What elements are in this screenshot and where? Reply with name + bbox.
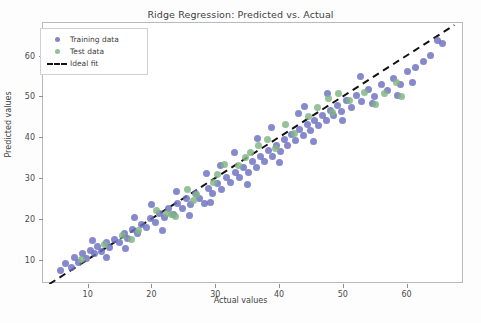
data-point xyxy=(269,153,276,160)
data-point xyxy=(253,164,260,171)
data-point xyxy=(214,171,221,178)
y-axis-label: Predicted values xyxy=(4,65,13,185)
data-point xyxy=(282,121,289,128)
data-point xyxy=(439,40,446,47)
legend-item-training: Training data xyxy=(46,34,141,45)
data-point xyxy=(371,93,378,100)
data-point xyxy=(152,219,159,226)
data-point xyxy=(412,64,419,71)
data-point xyxy=(268,124,275,131)
data-point xyxy=(210,179,217,186)
data-point xyxy=(221,161,228,168)
data-point xyxy=(335,90,342,97)
data-point xyxy=(346,97,353,104)
y-tick-label: 40 xyxy=(13,133,35,142)
data-point xyxy=(409,79,416,86)
data-point xyxy=(378,81,385,88)
x-axis-label: Actual values xyxy=(0,296,481,305)
data-point xyxy=(284,142,291,149)
chart-figure: Ridge Regression: Predicted vs. Actual 1… xyxy=(0,0,481,323)
data-point xyxy=(203,170,210,177)
data-point xyxy=(159,227,166,234)
data-point xyxy=(119,232,126,239)
x-tick xyxy=(215,284,216,288)
data-point xyxy=(190,197,197,204)
data-point xyxy=(261,158,268,165)
data-point xyxy=(357,73,364,80)
legend-item-ideal-fit: Ideal fit xyxy=(46,58,141,69)
data-point xyxy=(135,227,142,234)
data-point xyxy=(339,117,346,124)
y-tick xyxy=(39,219,43,220)
data-point xyxy=(218,186,225,193)
dashed-line-icon xyxy=(46,63,68,65)
y-tick xyxy=(39,260,43,261)
training-dot-icon xyxy=(46,37,68,42)
data-point xyxy=(227,179,234,186)
data-point xyxy=(325,95,332,102)
chart-legend: Training data Test data Ideal fit xyxy=(40,28,148,75)
y-tick xyxy=(39,137,43,138)
data-point xyxy=(231,149,238,156)
data-point xyxy=(300,132,307,139)
y-tick-label: 10 xyxy=(13,255,35,264)
x-tick xyxy=(88,284,89,288)
data-point xyxy=(393,79,400,86)
data-point xyxy=(358,98,365,105)
data-point xyxy=(381,90,388,97)
data-point xyxy=(348,104,355,111)
data-point xyxy=(57,267,64,274)
test-dot-icon xyxy=(46,49,68,54)
data-point xyxy=(314,104,321,111)
legend-label: Training data xyxy=(68,35,119,44)
data-point xyxy=(236,174,243,181)
legend-label: Test data xyxy=(68,47,104,56)
data-point xyxy=(78,256,85,263)
data-point xyxy=(427,52,434,59)
data-point xyxy=(103,254,110,261)
data-point xyxy=(420,58,427,65)
x-tick xyxy=(279,284,280,288)
data-point xyxy=(295,110,302,117)
data-point xyxy=(173,188,180,195)
x-tick xyxy=(407,284,408,288)
data-point xyxy=(338,108,345,115)
data-point xyxy=(172,213,179,220)
y-tick-label: 50 xyxy=(13,92,35,101)
data-point xyxy=(247,149,254,156)
data-point xyxy=(116,239,123,246)
data-point xyxy=(264,136,271,143)
y-tick xyxy=(39,178,43,179)
x-tick xyxy=(343,284,344,288)
x-tick xyxy=(151,284,152,288)
y-tick-label: 30 xyxy=(13,173,35,182)
data-point xyxy=(310,138,317,145)
data-point xyxy=(91,250,98,257)
y-tick xyxy=(39,96,43,97)
data-point xyxy=(179,205,186,212)
data-point xyxy=(235,162,242,169)
data-point xyxy=(292,137,299,144)
data-point xyxy=(255,142,262,149)
chart-title: Ridge Regression: Predicted vs. Actual xyxy=(0,9,481,20)
data-point xyxy=(315,122,322,129)
data-point xyxy=(143,224,150,231)
data-point xyxy=(307,127,314,134)
data-point xyxy=(184,186,191,193)
data-point xyxy=(131,214,138,221)
data-point xyxy=(245,169,252,176)
legend-item-test: Test data xyxy=(46,46,141,57)
data-point xyxy=(276,159,283,166)
data-point xyxy=(291,130,298,137)
data-point xyxy=(323,117,330,124)
data-point xyxy=(272,145,279,152)
y-tick-label: 60 xyxy=(13,51,35,60)
y-tick-label: 20 xyxy=(13,214,35,223)
data-point xyxy=(361,89,368,96)
data-point xyxy=(186,212,193,219)
data-point xyxy=(398,93,405,100)
data-point xyxy=(209,190,216,197)
data-point xyxy=(301,103,308,110)
legend-label: Ideal fit xyxy=(68,59,98,68)
data-point xyxy=(207,199,214,206)
